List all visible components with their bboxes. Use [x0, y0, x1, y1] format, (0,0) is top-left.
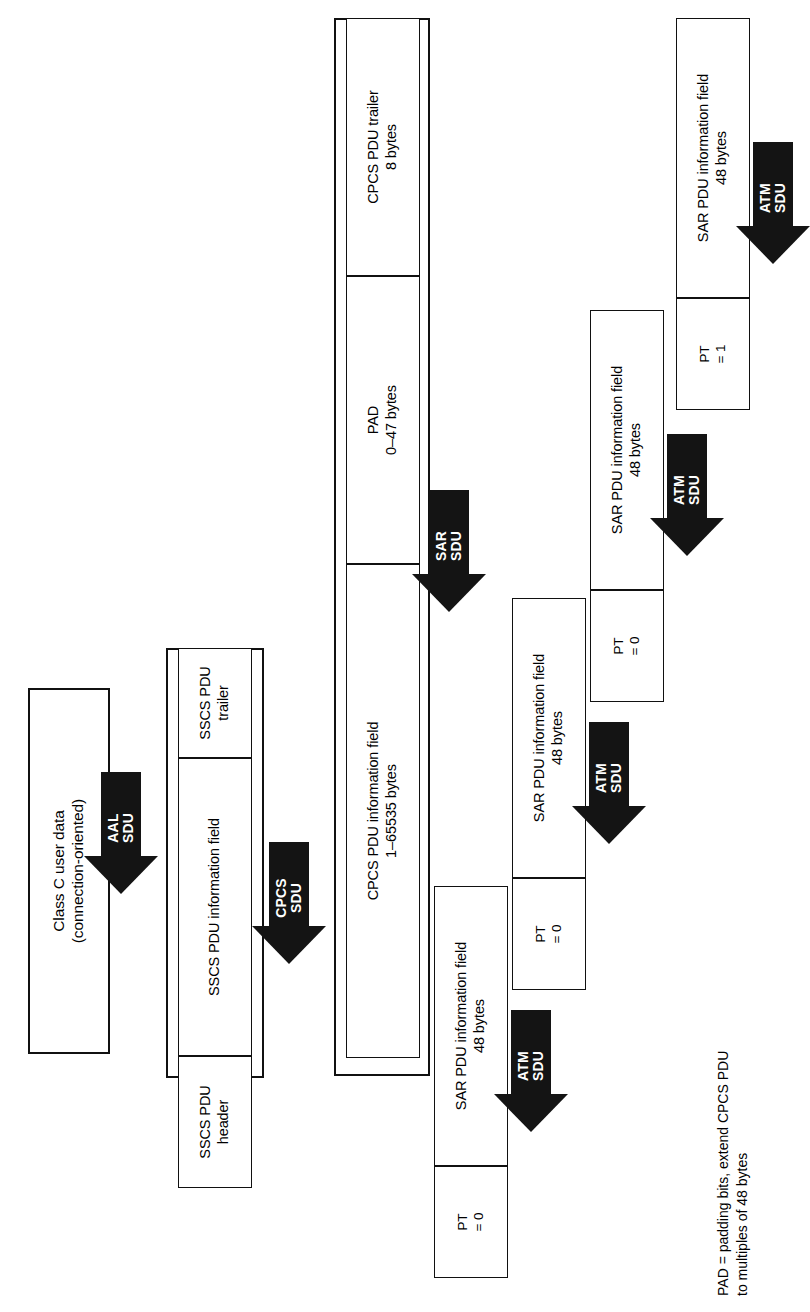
sar-pdu-1-pt-line1: PT: [455, 1213, 470, 1230]
footnote: PAD = padding bits, extend CPCS PDU to m…: [714, 1051, 752, 1296]
cpcs-sdu-arrow-label: CPCS SDU: [274, 878, 305, 918]
sar-pdu-3-information-field-box: SAR PDU information field 48 bytes: [590, 310, 664, 590]
sar-pdu-4-pt-box: PT = 1: [676, 298, 750, 410]
sscs-trailer-line1: SSCS PDU: [197, 666, 213, 739]
atm-sdu-2-line1: ATM: [593, 763, 609, 793]
sar-pdu-3-pt-line2: = 0: [627, 637, 642, 656]
sar-pdu-2-pt-label: PT = 0: [533, 925, 566, 944]
cpcs-pdu-trailer-label: CPCS PDU trailer 8 bytes: [365, 90, 400, 204]
footnote-line1: PAD = padding bits, extend CPCS PDU: [714, 1051, 733, 1296]
sar-pdu-1-pt-line2: = 0: [471, 1213, 486, 1232]
sar-pdu-4-line2: 48 bytes: [713, 131, 729, 185]
sar-pdu-2-pt-line2: = 0: [549, 925, 564, 944]
cpcs-pad-line2: 0–47 bytes: [383, 385, 399, 455]
sar-pdu-2-line2: 48 bytes: [549, 711, 565, 765]
sar-pdu-4-line1: SAR PDU information field: [695, 74, 711, 242]
sscs-pdu-information-field-box: SSCS PDU information field: [178, 758, 252, 1056]
cpcs-sdu-arrow-shaft: [269, 842, 309, 926]
sar-pdu-1-line1: SAR PDU information field: [453, 942, 469, 1110]
sar-pdu-1-information-field-label: SAR PDU information field 48 bytes: [453, 942, 488, 1110]
cpcs-info-line1: CPCS PDU information field: [365, 722, 381, 901]
aal-sdu-arrow-label: AAL SDU: [106, 813, 137, 843]
aal-sdu-line2: SDU: [120, 813, 136, 843]
sar-pdu-3-information-field-label: SAR PDU information field 48 bytes: [609, 366, 644, 534]
sar-sdu-arrow-shaft: [429, 490, 469, 574]
sar-pdu-4-information-field-box: SAR PDU information field 48 bytes: [676, 18, 750, 298]
sar-pdu-4-pt-line1: PT: [697, 345, 712, 362]
cpcs-trailer-line2: 8 bytes: [383, 124, 399, 170]
sar-pdu-3-pt-box: PT = 0: [590, 590, 664, 702]
sscs-pdu-header-label: SSCS PDU header: [197, 1085, 232, 1158]
sar-pdu-3-line2: 48 bytes: [627, 423, 643, 477]
atm-sdu-arrow-4-shaft: [753, 142, 793, 226]
atm-sdu-arrow-3-shaft: [667, 434, 707, 518]
atm-sdu-4-line2: SDU: [772, 183, 788, 213]
sscs-pdu-information-field-label: SSCS PDU information field: [206, 818, 224, 996]
atm-sdu-arrow-4-label: ATM SDU: [758, 183, 789, 213]
sscs-pdu-header-box: SSCS PDU header: [178, 1056, 252, 1188]
sar-pdu-1-pt-box: PT = 0: [434, 1166, 508, 1278]
sar-pdu-1-information-field-box: SAR PDU information field 48 bytes: [434, 886, 508, 1166]
sar-sdu-line2: SDU: [448, 531, 464, 561]
class-c-user-data-label: Class C user data (connection-oriented): [50, 799, 88, 943]
sscs-header-line2: header: [215, 1100, 231, 1145]
sar-pdu-3-pt-label: PT = 0: [611, 637, 644, 656]
sar-pdu-2-information-field-box: SAR PDU information field 48 bytes: [512, 598, 586, 878]
footnote-line2: to multiples of 48 bytes: [733, 1051, 752, 1296]
cpcs-pdu-pad-label: PAD 0–47 bytes: [365, 385, 400, 455]
sar-pdu-2-information-field-label: SAR PDU information field 48 bytes: [531, 654, 566, 822]
sscs-pdu-trailer-label: SSCS PDU trailer: [197, 666, 232, 739]
sscs-trailer-line2: trailer: [215, 685, 231, 721]
sar-sdu-arrow-label: SAR SDU: [434, 531, 465, 561]
sscs-pdu-trailer-box: SSCS PDU trailer: [178, 648, 252, 758]
atm-sdu-arrow-2-shaft: [589, 722, 629, 806]
sar-pdu-3-pt-line1: PT: [611, 637, 626, 654]
cpcs-info-line2: 1–65535 bytes: [383, 764, 399, 858]
atm-sdu-2-line2: SDU: [608, 763, 624, 793]
cpcs-pdu-trailer-box: CPCS PDU trailer 8 bytes: [346, 18, 420, 276]
sscs-info-line1: SSCS PDU information field: [206, 818, 222, 996]
cpcs-pad-line1: PAD: [365, 406, 381, 434]
atm-sdu-3-line2: SDU: [686, 475, 702, 505]
class-c-user-data-line1: Class C user data: [50, 810, 67, 932]
class-c-user-data-line2: (connection-oriented): [69, 799, 86, 943]
atm-sdu-3-line1: ATM: [671, 475, 687, 505]
cpcs-sdu-line1: CPCS: [273, 878, 289, 918]
sar-pdu-2-pt-box: PT = 0: [512, 878, 586, 990]
cpcs-pdu-pad-box: PAD 0–47 bytes: [346, 276, 420, 564]
sar-pdu-4-pt-line2: = 1: [713, 345, 728, 364]
sar-pdu-4-information-field-label: SAR PDU information field 48 bytes: [695, 74, 730, 242]
atm-sdu-arrow-3-label: ATM SDU: [672, 475, 703, 505]
atm-sdu-arrow-2-label: ATM SDU: [594, 763, 625, 793]
sar-pdu-4-pt-label: PT = 1: [697, 345, 730, 364]
cpcs-sdu-line2: SDU: [288, 883, 304, 913]
sar-pdu-2-pt-line1: PT: [533, 925, 548, 942]
sar-sdu-line1: SAR: [433, 531, 449, 561]
cpcs-trailer-line1: CPCS PDU trailer: [365, 90, 381, 204]
sar-pdu-1-pt-label: PT = 0: [455, 1213, 488, 1232]
class-c-user-data-box: Class C user data (connection-oriented): [28, 688, 110, 1054]
atm-sdu-1-line1: ATM: [515, 1051, 531, 1081]
sar-pdu-1-line2: 48 bytes: [471, 999, 487, 1053]
atm-sdu-arrow-1-shaft: [511, 1010, 551, 1094]
cpcs-pdu-information-field-box: CPCS PDU information field 1–65535 bytes: [346, 564, 420, 1058]
cpcs-pdu-information-field-label: CPCS PDU information field 1–65535 bytes: [365, 722, 400, 901]
sar-pdu-3-line1: SAR PDU information field: [609, 366, 625, 534]
atm-sdu-4-line1: ATM: [757, 183, 773, 213]
sar-pdu-2-line1: SAR PDU information field: [531, 654, 547, 822]
atm-sdu-arrow-1-label: ATM SDU: [516, 1051, 547, 1081]
sscs-header-line1: SSCS PDU: [197, 1085, 213, 1158]
atm-sdu-1-line2: SDU: [530, 1051, 546, 1081]
